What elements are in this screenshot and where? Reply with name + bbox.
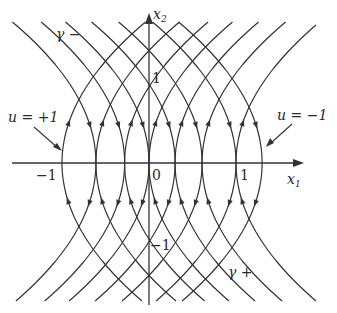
direction-arrow-icon [115, 121, 120, 128]
trajectory-curves [12, 22, 316, 301]
direction-arrow-icon [154, 197, 159, 204]
phase-portrait-figure [0, 0, 337, 313]
u-minus-trajectory [179, 22, 263, 301]
direction-arrow-icon [141, 199, 146, 206]
direction-arrow-icon [129, 197, 134, 204]
u-minus-label: u = −1 [277, 108, 327, 122]
y-tick-minus-1: −1 [150, 238, 171, 252]
u-plus-label: u = +1 [8, 110, 58, 124]
direction-arrow-icon [152, 119, 157, 126]
x1-axis-arrowhead-icon [293, 159, 304, 167]
direction-arrow-icon [207, 197, 212, 204]
direction-arrow-icon [88, 199, 93, 206]
u-minus-trajectory [41, 22, 125, 301]
gamma-minus-label: γ − [56, 27, 81, 41]
direction-arrow-icon [178, 119, 183, 126]
direction-arrow-icon [140, 121, 145, 128]
x1-axis-label: x1 [287, 172, 301, 189]
direction-arrow-icon [99, 119, 104, 126]
u-plus-pointer [34, 127, 58, 148]
direction-arrow-icon [100, 197, 105, 204]
direction-arrow-icon [86, 121, 91, 128]
gamma-plus-label: γ + [228, 265, 253, 279]
direction-arrow-icon [65, 119, 70, 126]
u-minus-pointer-arrowhead-icon [266, 138, 274, 147]
direction-arrow-icon [205, 119, 210, 126]
direction-arrow-icon [116, 199, 121, 206]
direction-arrow-icon [239, 119, 244, 126]
x2-axis-arrowhead-icon [145, 13, 153, 24]
x-tick-minus-1: −1 [36, 168, 57, 182]
u-minus-pointer [271, 124, 292, 143]
direction-arrow-icon [193, 121, 198, 128]
x-tick-1: 1 [240, 168, 249, 182]
direction-arrow-icon [166, 121, 171, 128]
x2-axis-label: x2 [153, 7, 167, 24]
direction-arrow-icon [128, 119, 133, 126]
direction-arrow-icon [254, 199, 259, 206]
direction-arrow-icon [228, 199, 233, 206]
direction-arrow-icon [67, 197, 72, 204]
origin-label: 0 [152, 168, 161, 182]
direction-arrow-icon [227, 121, 232, 128]
direction-arrow-icon [180, 197, 185, 204]
direction-arrow-icon [241, 197, 246, 204]
y-tick-1: 1 [152, 71, 161, 85]
u-plus-trajectory [62, 22, 146, 301]
direction-arrow-icon [253, 121, 258, 128]
direction-arrow-icon [167, 199, 172, 206]
direction-arrow-icon [194, 199, 199, 206]
